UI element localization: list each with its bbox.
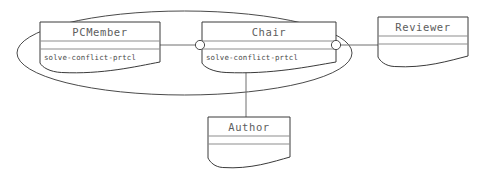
diagram-canvas: PCMembersolve-conflict-prtclChairsolve-c…: [0, 0, 477, 179]
class-box-pcmember[interactable]: PCMembersolve-conflict-prtcl: [40, 22, 160, 73]
class-box-chair[interactable]: Chairsolve-conflict-prtcl: [202, 22, 336, 73]
class-boxes-layer: PCMembersolve-conflict-prtclChairsolve-c…: [40, 17, 468, 168]
class-name-label: Chair: [252, 26, 287, 38]
class-name-label: Reviewer: [395, 21, 450, 33]
class-members-group: solve-conflict-prtcl: [206, 53, 298, 62]
class-member-label: solve-conflict-prtcl: [44, 53, 136, 62]
class-members-group: solve-conflict-prtcl: [44, 53, 136, 62]
class-member-label: solve-conflict-prtcl: [206, 53, 298, 62]
diagram-svg: PCMembersolve-conflict-prtclChairsolve-c…: [0, 0, 477, 179]
class-name-label: PCMember: [72, 26, 127, 38]
chair-left-socket[interactable]: [195, 40, 204, 49]
chair-right-socket[interactable]: [331, 40, 340, 49]
class-name-label: Author: [228, 121, 270, 133]
class-box-author[interactable]: Author: [208, 117, 290, 168]
class-box-reviewer[interactable]: Reviewer: [378, 17, 468, 67]
